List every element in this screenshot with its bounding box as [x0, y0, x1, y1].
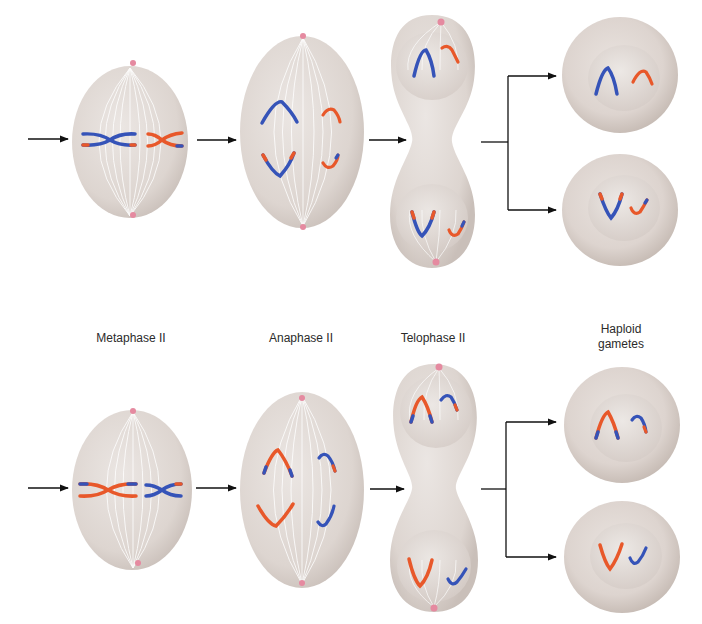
centrosome — [130, 408, 136, 414]
centrosome — [299, 580, 305, 586]
nucleus — [397, 530, 471, 602]
gamete-bottom-1 — [564, 367, 680, 483]
centrosome — [431, 605, 438, 612]
gamete-top-1 — [562, 17, 678, 133]
anaphase-cell-top — [240, 33, 364, 230]
label-haploid-line2: gametes — [560, 337, 682, 352]
centrosome — [438, 19, 445, 26]
label-telophase-ii: Telophase II — [372, 331, 494, 346]
centrosome — [300, 224, 306, 230]
meiosis-ii-diagram — [0, 0, 702, 624]
label-metaphase-ii: Metaphase II — [70, 331, 192, 346]
telophase-cell-top — [390, 15, 475, 268]
label-haploid-gametes: Haploid gametes — [560, 322, 682, 352]
label-haploid-line1: Haploid — [560, 322, 682, 337]
row-bottom — [28, 364, 680, 614]
centrosome — [436, 364, 443, 371]
nucleus — [590, 523, 662, 589]
gamete-top-2 — [562, 154, 678, 266]
centrosome — [299, 395, 305, 401]
centrosome — [300, 33, 306, 39]
nucleus — [590, 394, 662, 462]
gamete-bottom-2 — [564, 501, 680, 613]
branch-arrow-bottom — [481, 422, 556, 557]
metaphase-cell-top — [72, 60, 188, 218]
centrosome — [433, 259, 440, 266]
label-anaphase-ii: Anaphase II — [240, 331, 362, 346]
centrosome — [135, 560, 141, 566]
nucleus — [588, 175, 660, 241]
row-top — [28, 15, 678, 268]
anaphase-cell-bottom — [240, 392, 364, 588]
telophase-cell-bottom — [390, 364, 478, 613]
centrosome — [130, 60, 136, 66]
branch-arrow-top — [481, 76, 556, 210]
metaphase-cell-bottom — [72, 408, 192, 570]
centrosome — [130, 212, 136, 218]
nucleus — [400, 376, 472, 448]
